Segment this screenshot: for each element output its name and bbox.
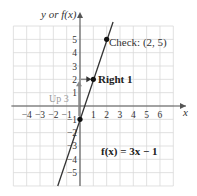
check-label: Check: (2, 5) bbox=[109, 36, 167, 49]
right-arrowhead-icon bbox=[86, 76, 91, 82]
equation-label: f(x) = 3x − 1 bbox=[101, 145, 158, 158]
y-tick-label: −5 bbox=[67, 168, 77, 178]
y-tick-label: −1 bbox=[67, 115, 77, 125]
x-tick-label: −3 bbox=[35, 110, 45, 120]
up-3-label: Up 3 bbox=[49, 93, 69, 104]
function-line bbox=[58, 22, 113, 186]
point-marker bbox=[91, 77, 96, 82]
x-tick-label: 1 bbox=[91, 110, 96, 120]
y-axis-arrowhead-icon bbox=[77, 12, 83, 18]
x-tick-label: −2 bbox=[48, 110, 58, 120]
y-tick-label: −4 bbox=[67, 155, 77, 165]
x-axis-label: x bbox=[182, 106, 188, 118]
right-1-label: Right 1 bbox=[98, 73, 133, 85]
x-tick-label: 5 bbox=[144, 110, 149, 120]
y-tick-label: 5 bbox=[72, 35, 77, 45]
x-tick-label: 6 bbox=[158, 110, 163, 120]
x-tick-label: 3 bbox=[118, 110, 123, 120]
function-line-segment bbox=[58, 22, 113, 186]
point-marker bbox=[77, 117, 82, 122]
y-tick-label: 1 bbox=[72, 88, 77, 98]
x-tick-label: 2 bbox=[104, 110, 109, 120]
y-tick-label: 4 bbox=[72, 48, 77, 58]
y-tick-label: 2 bbox=[72, 75, 77, 85]
graph: −4−3−2−112345654321−1−2−3−4−5 y or f(x) … bbox=[0, 0, 197, 196]
x-tick-label: −4 bbox=[22, 110, 32, 120]
y-tick-label: 3 bbox=[72, 62, 77, 72]
x-tick-label: 4 bbox=[131, 110, 136, 120]
y-axis-label: y or f(x) bbox=[40, 8, 77, 21]
